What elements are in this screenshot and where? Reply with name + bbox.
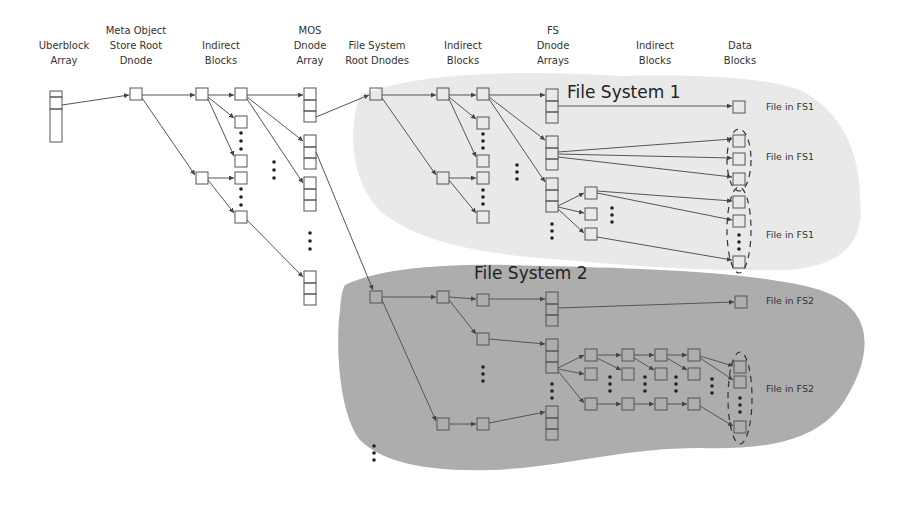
header-data-blocks: Data Blocks <box>724 38 756 68</box>
header-indirect-blocks: Indirect Blocks <box>636 38 674 68</box>
mos-indirect-block <box>235 211 247 223</box>
file-system-2-title: File System 2 <box>474 263 587 283</box>
mos-indirect-block <box>196 172 208 184</box>
mos-indirect-block <box>235 172 247 184</box>
mos-dnode-array <box>304 135 316 169</box>
ellipsis-dots <box>550 222 554 240</box>
mos-dnode-array <box>304 271 316 305</box>
file-label: File in FS1 <box>766 229 814 240</box>
header-uberblock-array: Uberblock Array <box>39 38 89 68</box>
mos-indirect-block <box>196 88 208 100</box>
zfs-block-tree-diagram <box>0 0 905 512</box>
header-fs-root-dnodes: File System Root Dnodes <box>345 38 409 68</box>
mos-root-dnode <box>130 88 142 100</box>
header-indirect-blocks: Indirect Blocks <box>202 38 240 68</box>
mos-dnode-array <box>304 177 316 211</box>
ellipsis-dots <box>550 382 554 400</box>
file-label: File in FS1 <box>766 101 814 112</box>
mos-indirect-block <box>235 155 247 167</box>
ellipsis-dots <box>239 131 276 207</box>
header-indirect-blocks: Indirect Blocks <box>444 38 482 68</box>
file-label: File in FS2 <box>766 295 814 306</box>
ellipsis-dots <box>738 396 742 414</box>
file-label: File in FS1 <box>766 151 814 162</box>
uberblock-array <box>50 91 62 142</box>
header-mos-dnode-array: MOS Dnode Array <box>294 23 327 68</box>
mos-indirect-block <box>235 116 247 128</box>
file-system-1-title: File System 1 <box>567 82 680 102</box>
mos-dnode-array <box>304 88 316 122</box>
file-label: File in FS2 <box>766 383 814 394</box>
ellipsis-dots <box>737 233 741 251</box>
ellipsis-dots <box>610 206 614 224</box>
mos-indirect-block <box>235 88 247 100</box>
ellipsis-dots <box>308 231 312 251</box>
header-mos-root-dnode: Meta Object Store Root Dnode <box>106 23 167 68</box>
header-fs-dnode-arrays: FS Dnode Arrays <box>537 23 570 68</box>
